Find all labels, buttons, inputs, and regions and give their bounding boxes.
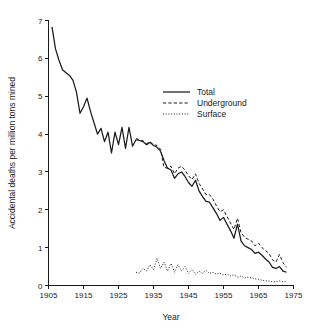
series-line-surface <box>136 258 287 281</box>
y-axis-ticks <box>45 21 49 286</box>
y-axis-tick-labels: 01234567 <box>38 17 43 291</box>
accidental-deaths-line-chart: 01234567 1905191519251935194519551965197… <box>0 0 318 330</box>
y-tick-label: 3 <box>38 168 43 177</box>
x-tick-label: 1955 <box>215 291 233 300</box>
legend-label-total: Total <box>197 87 215 97</box>
chart-figure: 01234567 1905191519251935194519551965197… <box>0 0 318 330</box>
series-line-total <box>52 27 287 272</box>
y-tick-label: 7 <box>38 17 43 26</box>
x-tick-label: 1945 <box>180 291 198 300</box>
x-tick-label: 1935 <box>145 291 163 300</box>
x-tick-label: 1925 <box>110 291 128 300</box>
x-axis-ticks <box>49 286 294 290</box>
legend-item-total: Total <box>163 87 215 97</box>
legend-label-underground: Underground <box>197 98 247 108</box>
y-tick-label: 0 <box>38 282 43 291</box>
series-line-underground <box>136 139 287 268</box>
chart-axes <box>45 21 294 290</box>
legend-item-surface: Surface <box>163 109 227 119</box>
x-tick-label: 1915 <box>75 291 93 300</box>
chart-legend: Total Underground Surface <box>163 87 247 119</box>
legend-item-underground: Underground <box>163 98 247 108</box>
x-tick-label: 1965 <box>250 291 268 300</box>
legend-label-surface: Surface <box>197 109 227 119</box>
x-axis-title: Year <box>162 312 179 322</box>
y-tick-label: 2 <box>38 206 43 215</box>
x-axis-tick-labels: 19051915192519351945195519651975 <box>40 291 303 300</box>
chart-series-group <box>52 27 287 282</box>
y-tick-label: 6 <box>38 54 43 63</box>
y-tick-label: 5 <box>38 92 43 101</box>
y-axis-title: Accidental deaths per million tons mined <box>7 77 17 229</box>
x-tick-label: 1905 <box>40 291 58 300</box>
y-tick-label: 4 <box>38 130 43 139</box>
x-tick-label: 1975 <box>285 291 303 300</box>
y-tick-label: 1 <box>38 244 43 253</box>
